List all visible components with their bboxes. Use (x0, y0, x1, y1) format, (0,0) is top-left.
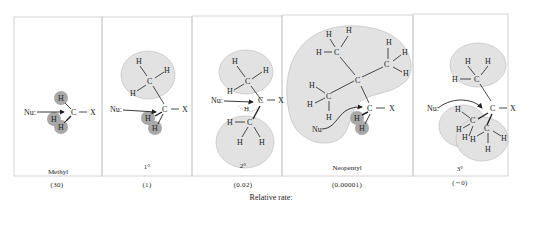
svg-text:C: C (258, 96, 263, 105)
svg-text:C: C (470, 116, 475, 125)
rate-primary: (1) (142, 181, 151, 189)
svg-text:C: C (162, 105, 167, 114)
svg-text:X: X (510, 104, 516, 113)
svg-text:Nu:: Nu: (427, 104, 439, 113)
svg-text:C: C (384, 60, 389, 69)
svg-text:H: H (402, 48, 408, 57)
svg-text:H: H (58, 123, 64, 132)
svg-text:H: H (485, 57, 491, 66)
svg-text:X: X (278, 96, 284, 105)
svg-text:X: X (90, 108, 96, 117)
svg-text:Nu:: Nu: (211, 96, 223, 105)
svg-text:C: C (474, 75, 479, 84)
svg-text:H: H (307, 100, 313, 109)
svg-text:H: H (455, 105, 461, 114)
svg-text:H: H (326, 30, 332, 39)
svg-text:C: C (484, 124, 489, 133)
svg-text:H: H (164, 66, 170, 75)
svg-text:H: H (237, 138, 243, 147)
svg-text:H: H (359, 124, 365, 133)
svg-text:H: H (244, 105, 249, 113)
svg-text:C: C (245, 77, 250, 86)
svg-text:H: H (326, 113, 332, 122)
svg-text:C: C (247, 118, 252, 127)
svg-text:H: H (152, 124, 158, 133)
svg-text:H: H (470, 135, 476, 144)
svg-text:H: H (145, 114, 151, 123)
svg-text:H: H (232, 57, 238, 66)
panel-label-secondary: 2° (240, 162, 246, 170)
svg-text:H: H (501, 134, 507, 143)
svg-text:H: H (263, 66, 269, 75)
svg-text:H: H (465, 57, 471, 66)
rate-secondary: (0.02) (234, 181, 253, 189)
svg-text:C: C (71, 108, 76, 117)
svg-text:C: C (355, 76, 360, 85)
panel-tertiary: H H H C C X Nu: H C H H C H H H (427, 43, 516, 161)
svg-text:H: H (227, 118, 233, 127)
svg-text:H: H (462, 133, 468, 142)
panel-label-neopentyl: Neopentyl (332, 164, 361, 172)
svg-text:X: X (182, 105, 188, 114)
panel-label-tertiary: 3° (457, 165, 463, 173)
panel-secondary: H H H C Nu: C X H H C H H (211, 50, 284, 168)
svg-text:H: H (354, 114, 360, 123)
rate-neopentyl: (0.00001) (332, 181, 362, 189)
svg-text:H: H (452, 75, 458, 84)
panel-label-primary: 1° (144, 163, 150, 171)
svg-text:H: H (58, 94, 64, 103)
svg-text:C: C (490, 104, 495, 113)
panel-methyl: H H H Nu: C X (24, 91, 96, 134)
svg-text:C: C (147, 77, 152, 86)
panel-neopentyl: H H H C C C H H H C H H H C X H H (287, 26, 411, 143)
svg-text:H: H (386, 38, 392, 47)
rate-tertiary: (∼0) (452, 179, 467, 187)
panel-primary: H H H C H H Nu: C X (110, 51, 188, 135)
svg-text:H: H (485, 145, 491, 154)
svg-text:Nu:: Nu: (110, 105, 122, 114)
svg-text:H: H (227, 87, 233, 96)
panel-label-methyl: Methyl (48, 168, 68, 176)
svg-text:Nu:: Nu: (24, 108, 36, 117)
relative-rate-caption: Relative rate: (250, 193, 293, 202)
svg-text:H: H (316, 48, 322, 57)
svg-text:H: H (130, 89, 136, 98)
svg-text:H: H (51, 115, 57, 124)
svg-text:H: H (346, 26, 352, 35)
svg-text:H: H (403, 69, 409, 78)
svg-text:C: C (326, 92, 331, 101)
svg-text:H: H (136, 57, 142, 66)
svg-text:H: H (309, 81, 315, 90)
svg-text:H: H (259, 138, 265, 147)
svg-text:C: C (334, 48, 339, 57)
rate-methyl: (30) (51, 181, 64, 189)
svg-text:Nu: Nu (312, 125, 322, 134)
svg-text:X: X (389, 104, 395, 113)
